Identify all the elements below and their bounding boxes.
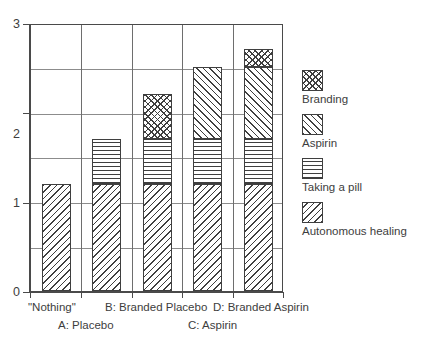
x-tick-mark-1 <box>81 292 82 298</box>
x-tick-mark-2 <box>132 292 133 298</box>
legend-label-autonomous-healing: Autonomous healing <box>302 224 422 239</box>
bar-segment-autonomous-healing <box>244 184 273 291</box>
x-axis-line <box>30 292 284 293</box>
bar-b-branded-placebo <box>143 23 172 291</box>
x-label-d-branded-aspirin: D: Branded Aspirin <box>213 301 309 313</box>
bar-nothing <box>42 23 71 291</box>
legend-item-taking-a-pill: Taking a pill <box>302 158 422 195</box>
x-label-c-aspirin: C: Aspirin <box>188 319 237 331</box>
x-label-a-placebo: A: Placebo <box>58 319 114 331</box>
bar-segment-aspirin <box>193 67 222 139</box>
plot-area <box>30 24 283 292</box>
legend-item-branding: Branding <box>302 70 422 107</box>
x-tick-mark-5 <box>283 292 284 298</box>
bar-c-aspirin <box>193 23 222 291</box>
bar-segment-branding <box>143 94 172 139</box>
bar-a-placebo <box>92 23 121 291</box>
bar-segment-taking-a-pill <box>92 139 121 184</box>
legend-label-taking-a-pill: Taking a pill <box>302 180 422 195</box>
bar-d-branded-aspirin <box>244 23 273 291</box>
bar-segment-aspirin <box>244 67 273 139</box>
x-tick-mark-3 <box>182 292 183 298</box>
bar-segment-taking-a-pill <box>143 139 172 184</box>
legend-item-autonomous-healing: Autonomous healing <box>302 202 422 239</box>
gridline-vertical-1 <box>81 25 82 291</box>
legend-swatch-aspirin-icon <box>302 114 323 135</box>
y-tick-label-2: 2 <box>0 128 20 141</box>
legend-label-aspirin: Aspirin <box>302 136 422 151</box>
legend-label-branding: Branding <box>302 92 422 107</box>
bar-segment-autonomous-healing <box>42 184 71 291</box>
x-tick-mark-0 <box>30 292 31 298</box>
x-tick-mark-4 <box>233 292 234 298</box>
bar-segment-autonomous-healing <box>92 184 121 291</box>
legend-swatch-taking-a-pill-icon <box>302 158 323 179</box>
gridline-vertical-2 <box>132 25 133 291</box>
bar-segment-taking-a-pill <box>244 139 273 184</box>
legend-item-aspirin: Aspirin <box>302 114 422 151</box>
bar-segment-autonomous-healing <box>143 184 172 291</box>
legend-swatch-autonomous-healing-icon <box>302 202 323 223</box>
gridline-vertical-3 <box>182 25 183 291</box>
gridline-vertical-4 <box>233 25 234 291</box>
bar-segment-autonomous-healing <box>193 184 222 291</box>
y-tick-label-0: 0 <box>0 286 20 299</box>
x-label-nothing: "Nothing" <box>28 301 76 313</box>
stacked-bar-chart: 3 2 1 0 <box>0 0 424 337</box>
y-tick-label-3: 3 <box>0 18 20 31</box>
bar-segment-branding <box>244 49 273 67</box>
y-tick-label-1: 1 <box>0 197 20 210</box>
legend-swatch-branding-icon <box>302 70 323 91</box>
legend: Branding Aspirin Taking a pill Autonomou… <box>302 70 422 246</box>
x-label-b-branded-placebo: B: Branded Placebo <box>105 301 207 313</box>
bar-segment-taking-a-pill <box>193 139 222 184</box>
